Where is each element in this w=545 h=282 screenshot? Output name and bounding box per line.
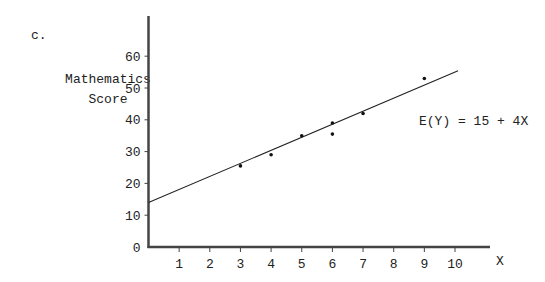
y-tick-label: 30 — [125, 145, 141, 160]
data-point — [361, 112, 365, 116]
x-tick-label: 2 — [206, 257, 214, 272]
x-tick-label: 7 — [359, 257, 367, 272]
x-tick-label: 3 — [237, 257, 245, 272]
y-tick-label: 10 — [125, 209, 141, 224]
x-tick-label: 1 — [175, 257, 183, 272]
data-point — [331, 121, 335, 125]
y-tick-label: 20 — [125, 177, 141, 192]
data-point — [269, 153, 273, 157]
x-tick-label: 4 — [267, 257, 275, 272]
data-point — [239, 164, 243, 168]
data-point — [300, 134, 304, 138]
x-tick-label: 6 — [328, 257, 336, 272]
scatter-plot: 010203040506012345678910 — [0, 0, 545, 282]
x-tick-label: 9 — [420, 257, 428, 272]
x-tick-label: 8 — [390, 257, 398, 272]
y-tick-label: 50 — [125, 82, 141, 97]
data-point — [423, 77, 427, 81]
y-tick-label: 40 — [125, 113, 141, 128]
x-tick-label: 5 — [298, 257, 306, 272]
x-tick-label: 10 — [447, 257, 463, 272]
data-point — [331, 132, 335, 136]
y-tick-label: 0 — [133, 241, 141, 256]
y-tick-label: 60 — [125, 50, 141, 65]
